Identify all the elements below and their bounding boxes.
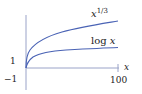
curve-cube-root-label: x1/3 [91, 7, 108, 19]
curve-log-label: logx [91, 35, 116, 46]
x-tick-label-100: 100 [110, 75, 127, 85]
function-plot: x1/3 logx x 100 1 −1 [0, 0, 142, 94]
y-tick-label-1: 1 [10, 56, 16, 66]
curve-log [26, 48, 118, 69]
y-tick-label-neg1: −1 [4, 74, 17, 84]
x-axis-label: x [124, 62, 129, 72]
